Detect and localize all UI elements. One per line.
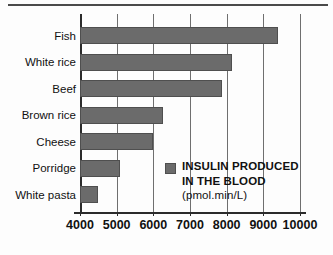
tickmark-7000	[190, 212, 191, 216]
category-label-white-pasta: White pasta	[0, 189, 76, 201]
legend-text-block: INSULIN PRODUCED IN THE BLOOD (pmol.min/…	[182, 159, 322, 203]
category-label-beef: Beef	[0, 83, 76, 95]
legend-line-2: IN THE BLOOD	[182, 174, 322, 189]
tick-label-10000: 10000	[283, 217, 318, 233]
category-label-white-rice: White rice	[0, 56, 76, 68]
tick-label-6000: 6000	[139, 217, 167, 233]
category-label-cheese: Cheese	[0, 136, 76, 148]
bar-white-pasta	[80, 186, 98, 203]
bar-cheese	[80, 133, 153, 150]
tick-label-9000: 9000	[249, 217, 277, 233]
tickmark-8000	[227, 212, 228, 216]
category-label-fish: Fish	[0, 30, 76, 42]
bar-porridge	[80, 160, 120, 177]
bar-white-rice	[80, 54, 232, 71]
tick-label-4000: 4000	[66, 217, 94, 233]
tick-label-7000: 7000	[176, 217, 204, 233]
tickmark-6000	[153, 212, 154, 216]
x-axis-tick-labels: 40005000600070008000900010000	[0, 217, 333, 239]
tickmark-4000	[80, 212, 81, 216]
legend-line-1: INSULIN PRODUCED	[182, 159, 322, 174]
bar-fish	[80, 27, 278, 44]
category-label-porridge: Porridge	[0, 162, 76, 174]
insulin-bar-chart-figure: FishWhite riceBeefBrown riceCheesePorrid…	[0, 0, 333, 255]
legend-line-units: (pmol.min/L)	[182, 188, 322, 203]
tick-label-8000: 8000	[213, 217, 241, 233]
tickmark-9000	[263, 212, 264, 216]
bar-beef	[80, 80, 222, 97]
tickmark-5000	[117, 212, 118, 216]
category-label-brown-rice: Brown rice	[0, 109, 76, 121]
bar-brown-rice	[80, 107, 163, 124]
legend-swatch-icon	[165, 163, 176, 174]
tick-label-5000: 5000	[103, 217, 131, 233]
tickmark-10000	[300, 212, 301, 216]
